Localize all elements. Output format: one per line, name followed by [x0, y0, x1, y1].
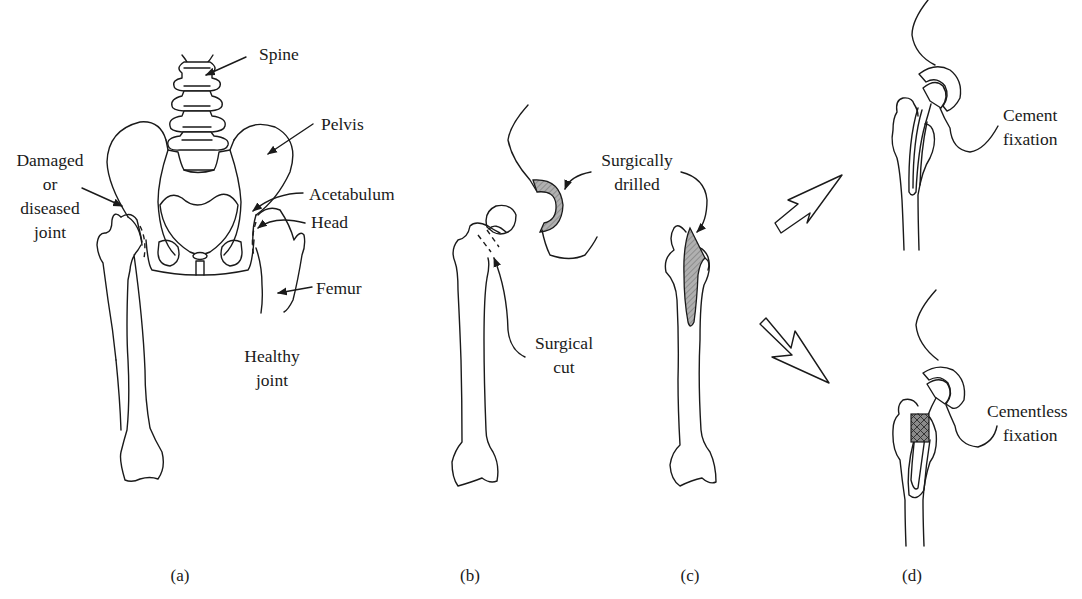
label-drilled-2: drilled	[614, 174, 660, 194]
label-femur: Femur	[316, 278, 362, 298]
porous-coating	[911, 414, 929, 442]
label-damaged-4: joint	[33, 222, 66, 242]
panel-c: Surgically drilled (c)	[565, 150, 716, 585]
label-damaged-1: Damaged	[16, 150, 83, 170]
label-cement-1: Cement	[1003, 105, 1058, 125]
panel-a: Spine Pelvis Damaged or diseased joint A…	[16, 44, 394, 585]
panel-d: Cement fixation Cementless fixation (d)	[892, 0, 1068, 585]
caption-b: (b)	[460, 566, 480, 585]
drilled-femur-leader	[681, 172, 707, 232]
label-drilled-1: Surgically	[601, 150, 673, 170]
damaged-joint-leader	[82, 188, 122, 206]
label-head: Head	[311, 212, 348, 232]
down-right-arrow-icon	[760, 318, 829, 383]
label-cement-2: fixation	[1003, 129, 1058, 149]
right-femur-illustration	[252, 208, 304, 313]
transition-arrows	[760, 175, 842, 383]
acetabulum-leader	[253, 193, 303, 211]
label-pelvis: Pelvis	[321, 114, 364, 134]
label-cementless-2: fixation	[1003, 425, 1058, 445]
surgical-cut-leader	[494, 258, 525, 357]
up-right-arrow-icon	[775, 175, 842, 233]
label-damaged-3: diseased	[20, 198, 80, 218]
label-damaged-2: or	[43, 174, 58, 194]
label-spine: Spine	[259, 44, 299, 64]
label-surgical-cut-2: cut	[553, 357, 575, 377]
hip-replacement-diagram: Spine Pelvis Damaged or diseased joint A…	[0, 0, 1082, 599]
left-femur-illustration	[97, 214, 163, 481]
drilled-socket-leader	[565, 172, 591, 189]
label-surgical-cut-1: Surgical	[535, 333, 593, 353]
head-leader	[258, 220, 305, 228]
cemented-implant: Cement fixation	[892, 0, 1058, 250]
caption-a: (a)	[171, 566, 190, 585]
caption-d: (d)	[902, 566, 922, 585]
label-acetabulum: Acetabulum	[309, 184, 395, 204]
label-cementless-1: Cementless	[987, 401, 1068, 421]
label-healthy-1: Healthy	[244, 346, 300, 366]
pelvis-leader	[268, 124, 313, 154]
caption-c: (c)	[681, 566, 700, 585]
label-healthy-2: joint	[255, 370, 288, 390]
cementless-implant: Cementless fixation	[893, 290, 1068, 546]
